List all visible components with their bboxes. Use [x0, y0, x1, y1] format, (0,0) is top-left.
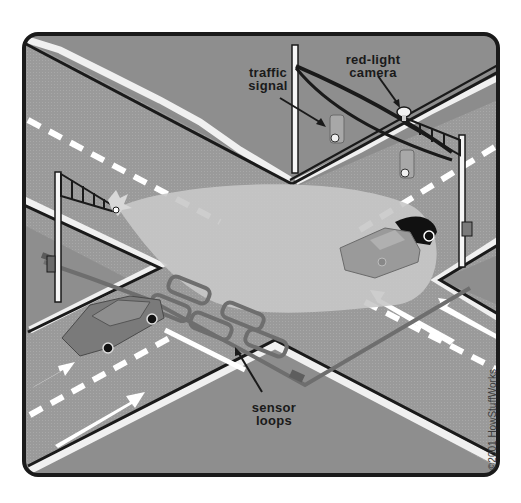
label-line: camera [333, 66, 413, 79]
label-line: signal [238, 79, 298, 92]
copyright-credit: ©2001 HowStuffWorks [487, 369, 498, 470]
traffic-signal-head-1 [330, 115, 344, 143]
label-line: loops [243, 414, 305, 427]
label-sensor-loops: sensor loops [243, 401, 305, 427]
traffic-signal-head-2 [400, 150, 414, 178]
label-traffic-signal: traffic signal [238, 66, 298, 92]
label-red-light-camera: red-light camera [333, 53, 413, 79]
